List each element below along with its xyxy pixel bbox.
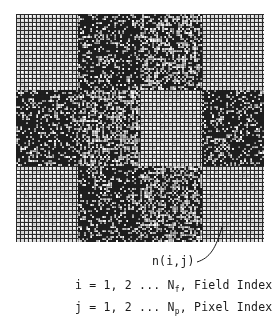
pixel-index-line: j = 1, 2 ... Np, Pixel Index (75, 300, 272, 316)
pixel-label: n(i,j) (152, 254, 195, 268)
field-index-suffix: , Field Index (180, 278, 273, 292)
field-index-line: i = 1, 2 ... Nf, Field Index (75, 278, 272, 294)
field-index-prefix: i = 1, 2 ... N (75, 278, 175, 292)
pixel-index-prefix: j = 1, 2 ... N (75, 300, 175, 314)
pixel-index-suffix: , Pixel Index (180, 300, 273, 314)
field-pixel-grid (16, 14, 264, 242)
